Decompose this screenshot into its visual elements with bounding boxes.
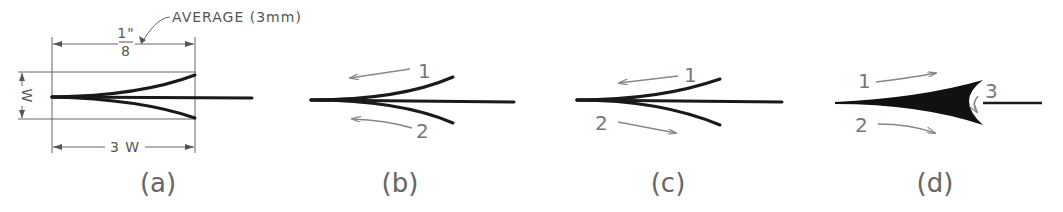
arrowhead-barb-bottom — [52, 97, 195, 118]
stroke-number-2: 2 — [855, 113, 868, 137]
arrow-shaft — [577, 100, 782, 102]
dim-arrowhead-icon — [53, 144, 62, 150]
stroke-number-1: 1 — [684, 63, 697, 87]
stroke-number-2: 2 — [595, 111, 608, 135]
dim-bottom-label: 3 W — [110, 139, 140, 155]
panel-c: 1 2 (c) — [577, 63, 782, 198]
panel-a: 1" 8 AVERAGE (3mm) W 3 W (a) — [18, 9, 302, 198]
dim-arrowhead-icon — [19, 73, 25, 81]
dim-side-label: W — [19, 89, 35, 104]
stroke-number-3: 3 — [985, 79, 998, 103]
stroke-arrow-3-icon — [974, 96, 978, 112]
arrow-shaft — [311, 100, 514, 102]
stroke-arrow-2-icon — [618, 122, 676, 133]
average-annotation: AVERAGE (3mm) — [172, 9, 302, 25]
arrowhead-barb-top — [311, 77, 453, 100]
stroke-arrow-1-icon — [350, 69, 410, 78]
stroke-arrow-2-icon — [878, 124, 935, 133]
arrowhead-barb-bottom — [311, 100, 453, 123]
dim-arrowhead-icon — [185, 144, 194, 150]
panel-b: 1 2 (b) — [311, 59, 514, 198]
stroke-number-2: 2 — [416, 119, 429, 143]
stroke-arrow-1-icon — [619, 76, 678, 83]
arrowhead-drawing-figure: 1" 8 AVERAGE (3mm) W 3 W (a) — [0, 0, 1063, 212]
arrowhead-barb-top — [52, 75, 195, 97]
arrow-shaft — [52, 97, 252, 98]
dim-fraction-denominator: 8 — [121, 43, 131, 59]
panel-label-d: (d) — [917, 168, 954, 198]
panel-label-b: (b) — [382, 168, 419, 198]
dim-arrowhead-icon — [19, 110, 25, 118]
panel-label-c: (c) — [651, 168, 686, 198]
panel-d: 1 2 3 (d) — [835, 69, 1042, 198]
stroke-number-1: 1 — [858, 69, 871, 93]
dim-arrowhead-icon — [53, 41, 62, 47]
panel-label-a: (a) — [140, 168, 176, 198]
stroke-number-1: 1 — [418, 59, 431, 83]
dim-arrowhead-icon — [185, 41, 194, 47]
arrowhead-barb-top — [577, 79, 720, 100]
stroke-arrow-1-icon — [876, 73, 936, 82]
stroke-arrow-2-icon — [352, 119, 412, 128]
leader-line — [142, 17, 170, 42]
dim-fraction-numerator: 1" — [117, 25, 134, 41]
